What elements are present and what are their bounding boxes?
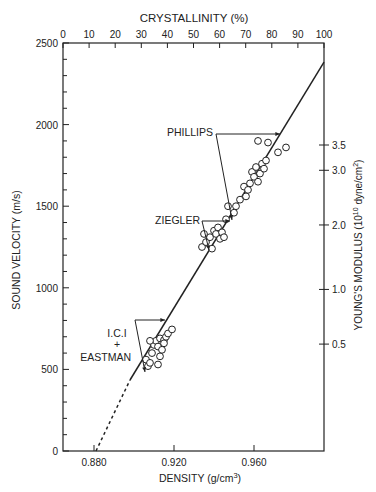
arrowhead — [160, 318, 165, 322]
data-point — [149, 350, 156, 357]
data-point — [147, 359, 154, 366]
top-tick-label: 70 — [240, 29, 252, 40]
data-point — [263, 157, 270, 164]
label-ziegler: ZIEGLER — [155, 214, 200, 226]
data-point — [247, 180, 254, 187]
data-point — [261, 165, 268, 172]
y-axis-title: SOUND VELOCITY (m/s) — [10, 190, 22, 309]
top-tick-label: 40 — [162, 29, 174, 40]
y-tick-label: 2500 — [36, 38, 59, 49]
data-point — [243, 193, 250, 200]
data-point — [201, 231, 208, 238]
x-tick-label: 0.920 — [161, 457, 186, 468]
data-point — [169, 326, 176, 333]
x-tick-label: 0.960 — [241, 457, 266, 468]
data-point — [159, 346, 166, 353]
top-tick-label: 0 — [60, 29, 66, 40]
data-point — [209, 245, 216, 252]
label-plus: + — [114, 338, 120, 350]
data-point — [233, 203, 240, 210]
data-point — [231, 209, 238, 216]
data-point — [283, 144, 290, 151]
y-tick-label: 0 — [52, 446, 58, 457]
right-tick-label: 1.0 — [332, 284, 346, 295]
y-tick-label: 2000 — [36, 120, 59, 131]
right-tick-label: 0.5 — [332, 339, 346, 350]
top-tick-label: 20 — [110, 29, 122, 40]
data-points — [143, 138, 290, 370]
annotations: PHILLIPSZIEGLERI.C.I+EASTMAN — [80, 126, 280, 372]
plot-frame — [63, 43, 324, 451]
label-eastman: EASTMAN — [80, 351, 131, 363]
arrowhead — [142, 367, 146, 372]
right-tick-label: 2.0 — [332, 220, 346, 231]
data-point — [245, 186, 252, 193]
data-point — [221, 234, 228, 241]
top-tick-label: 80 — [266, 29, 278, 40]
axes: 0102030405060708090100050010001500200025… — [36, 29, 347, 468]
data-point — [155, 361, 162, 368]
fit-line-dashed — [96, 380, 130, 451]
right-tick-label: 3.0 — [332, 165, 346, 176]
y-tick-label: 500 — [41, 364, 58, 375]
label-phillips: PHILLIPS — [167, 126, 213, 138]
data-point — [265, 139, 272, 146]
top-tick-label: 90 — [292, 29, 304, 40]
data-point — [147, 337, 154, 344]
top-tick-label: 10 — [84, 29, 96, 40]
top-tick-label: 100 — [316, 29, 333, 40]
top-tick-label: 50 — [188, 29, 200, 40]
annotation-arrow — [216, 134, 232, 220]
y-tick-label: 1500 — [36, 201, 59, 212]
top-tick-label: 30 — [136, 29, 148, 40]
data-point — [275, 149, 282, 156]
data-point — [161, 340, 168, 347]
top-tick-label: 60 — [214, 29, 226, 40]
x-axis-title: DENSITY (g/cm3) — [159, 471, 241, 484]
fit-line — [96, 62, 324, 451]
top-axis-title: CRYSTALLINITY (%) — [140, 12, 249, 24]
right-tick-label: 3.5 — [332, 140, 346, 151]
data-point — [255, 138, 262, 145]
data-point — [157, 353, 164, 360]
y-tick-label: 1000 — [36, 283, 59, 294]
right-axis-title: YOUNG'S MODULUS (1010 dyne/cm2) — [352, 160, 364, 331]
x-tick-label: 0.880 — [81, 457, 106, 468]
chart: 0102030405060708090100050010001500200025… — [0, 0, 376, 492]
data-point — [255, 178, 262, 185]
